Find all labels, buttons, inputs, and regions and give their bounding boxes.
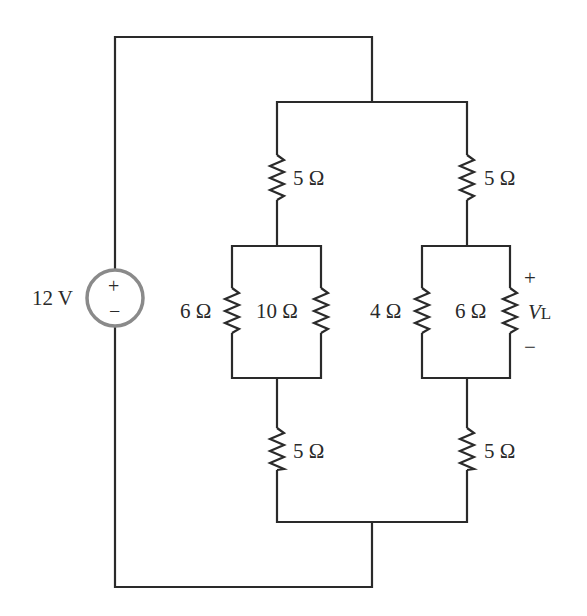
resistor-left-6 bbox=[225, 288, 239, 333]
wire-outer-loop-bottom bbox=[115, 326, 372, 587]
load-plus-sign: + bbox=[524, 268, 536, 289]
wire-outer-loop bbox=[115, 37, 372, 270]
label-right-bottom-resistor: 5 Ω bbox=[484, 441, 515, 462]
load-voltage-symbol: V bbox=[528, 300, 541, 324]
source-minus-sign: − bbox=[109, 301, 120, 321]
resistor-left-10 bbox=[314, 288, 328, 333]
resistor-left-top bbox=[270, 155, 284, 200]
resistor-right-6 bbox=[503, 288, 517, 333]
load-voltage-subscript: L bbox=[541, 304, 551, 323]
label-left-10-resistor: 10 Ω bbox=[256, 301, 298, 322]
label-left-6-resistor: 6 Ω bbox=[180, 301, 211, 322]
wire-top-bus bbox=[277, 102, 467, 155]
resistor-right-top bbox=[460, 155, 474, 200]
load-voltage-label: VL bbox=[528, 302, 551, 323]
label-right-6-resistor: 6 Ω bbox=[455, 301, 486, 322]
label-left-top-resistor: 5 Ω bbox=[293, 168, 324, 189]
resistor-right-bottom bbox=[460, 428, 474, 470]
source-voltage-label: 12 V bbox=[32, 288, 73, 309]
load-minus-sign: − bbox=[524, 337, 536, 358]
label-right-4-resistor: 4 Ω bbox=[370, 301, 401, 322]
source-plus-sign: + bbox=[108, 276, 119, 296]
wire-bottom-bus bbox=[277, 470, 467, 522]
label-right-top-resistor: 5 Ω bbox=[484, 168, 515, 189]
label-left-bottom-resistor: 5 Ω bbox=[293, 441, 324, 462]
resistor-right-4 bbox=[415, 288, 429, 333]
resistor-left-bottom bbox=[270, 428, 284, 470]
